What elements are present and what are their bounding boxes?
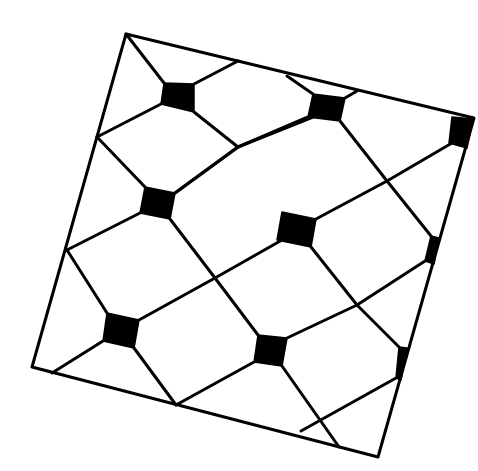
- lattice-line: [139, 278, 215, 320]
- outer-frame: [32, 34, 474, 457]
- lattice-line: [67, 213, 140, 250]
- lattice-line: [316, 181, 387, 219]
- lattice-line: [287, 305, 357, 338]
- lattice-line: [340, 121, 387, 181]
- lattice-line: [194, 61, 238, 84]
- black-square-tile-d: [140, 187, 175, 219]
- lattice-line: [387, 181, 431, 236]
- connecting-lines: [52, 34, 452, 447]
- lattice-line: [170, 219, 215, 278]
- lattice-line: [215, 278, 258, 335]
- black-square-tile-g: [103, 313, 139, 348]
- lattice-line: [215, 240, 282, 278]
- lattice-line: [301, 378, 396, 431]
- lattice-line: [67, 250, 107, 313]
- lattice-line: [357, 261, 425, 305]
- lattice-line: [176, 362, 254, 405]
- lattice-line: [97, 104, 161, 137]
- lattice-line: [311, 247, 357, 305]
- lattice-line: [194, 112, 238, 147]
- octagon-square-tiling-diagram: [0, 0, 478, 471]
- lattice-line: [387, 143, 452, 181]
- lattice-line: [97, 137, 145, 187]
- black-square-tile-h: [254, 335, 287, 366]
- lattice-line: [345, 91, 357, 98]
- lattice-line: [175, 147, 238, 193]
- black-square-tile-b: [308, 94, 345, 121]
- lattice-line: [357, 305, 399, 347]
- lattice-line: [52, 341, 103, 373]
- lattice-line: [238, 117, 308, 147]
- black-square-tile-e: [277, 212, 316, 247]
- black-square-tile-a: [161, 83, 194, 112]
